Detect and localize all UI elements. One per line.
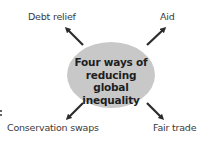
arrow-debt-relief <box>67 29 83 45</box>
center-line-1: Four ways of <box>67 56 155 69</box>
branch-label-fair-trade: Fair trade <box>153 122 196 133</box>
branch-label-aid: Aid <box>160 11 175 22</box>
center-node-text: Four ways of reducing global inequality <box>67 56 155 106</box>
arrow-aid <box>147 29 164 45</box>
edge-mark <box>0 110 2 116</box>
center-line-2: reducing global <box>67 69 155 94</box>
branch-label-debt-relief: Debt relief <box>28 11 76 22</box>
center-line-3: inequality <box>67 94 155 107</box>
branch-label-conservation-swaps: Conservation swaps <box>7 122 99 133</box>
